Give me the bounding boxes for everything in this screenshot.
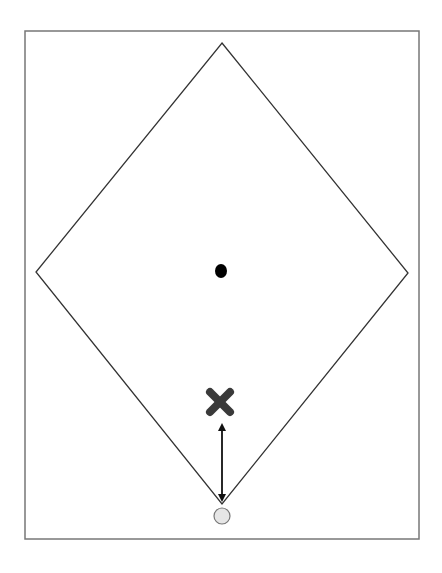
start-circle [214, 508, 230, 524]
field-diagram [0, 0, 442, 573]
center-dot [215, 264, 227, 278]
x-marker-icon [210, 392, 230, 412]
